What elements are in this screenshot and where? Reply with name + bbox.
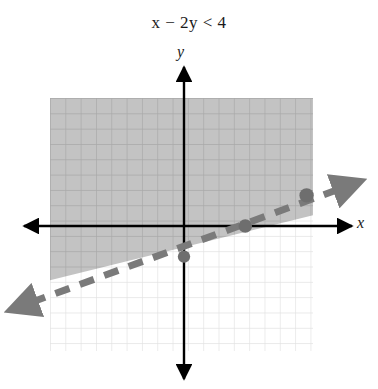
y-axis-label: y [177,43,184,61]
coordinate-plane [0,0,378,389]
point-marker [239,219,253,233]
point-marker [178,250,190,262]
graph-figure: x − 2y < 4 [0,0,378,389]
point-marker [299,188,313,202]
x-axis-label: x [357,214,364,232]
